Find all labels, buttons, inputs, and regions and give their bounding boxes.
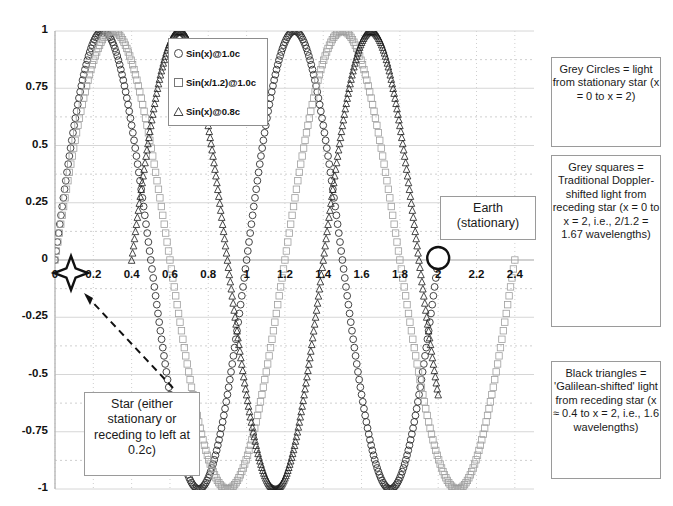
legend-label-2: Sin(x)@0.8c [186,106,240,118]
square-icon [173,77,184,88]
x-tick-5: 1 [227,268,267,280]
x-tick-1: 0.2 [73,268,113,280]
y-tick-8: -1 [0,481,48,493]
star-leader-arrowhead [84,293,93,305]
legend-item-0: Sin(x)@1.0c [169,39,267,68]
legend-label-0: Sin(x)@1.0c [186,48,240,60]
y-tick-3: 0.25 [0,195,48,207]
y-tick-0: 1 [0,23,48,35]
triangle-icon [173,106,184,117]
earth-glyph [427,247,449,269]
x-tick-6: 1.2 [265,268,305,280]
x-tick-7: 1.4 [303,268,343,280]
y-tick-2: 0.5 [0,138,48,150]
y-tick-5: -0.25 [0,309,48,321]
y-tick-7: -0.75 [0,424,48,436]
annotation-grey-squares: Grey squares = Traditional Doppler-shift… [551,155,661,327]
chart-legend: Sin(x)@1.0c Sin(x/1.2)@1.0c Sin(x)@0.8c [168,38,268,126]
x-tick-3: 0.6 [150,268,190,280]
x-tick-2: 0.4 [112,268,152,280]
x-tick-10: 2 [418,268,458,280]
x-tick-12: 2.4 [495,268,535,280]
legend-label-1: Sin(x/1.2)@1.0c [186,77,256,89]
circle-icon [173,48,184,59]
chart-canvas: 10.750.50.250-0.25-0.5-0.75-1 00.20.40.6… [0,0,673,506]
y-tick-6: -0.5 [0,367,48,379]
x-tick-4: 0.8 [188,268,228,280]
annotation-earth: Earth (stationary) [440,196,536,240]
y-tick-1: 0.75 [0,80,48,92]
annotation-star: Star (either stationary or receding to l… [84,392,200,476]
x-tick-11: 2.2 [457,268,497,280]
legend-item-2: Sin(x)@0.8c [169,97,267,126]
x-tick-8: 1.6 [342,268,382,280]
annotation-grey-circles: Grey Circles = light from stationary sta… [551,57,661,147]
x-tick-9: 1.8 [380,268,420,280]
legend-item-1: Sin(x/1.2)@1.0c [169,68,267,97]
annotation-black-triangles: Black triangles = 'Galilean-shifted' lig… [551,361,661,479]
y-tick-4: 0 [0,252,48,264]
x-tick-0: 0 [35,268,75,280]
